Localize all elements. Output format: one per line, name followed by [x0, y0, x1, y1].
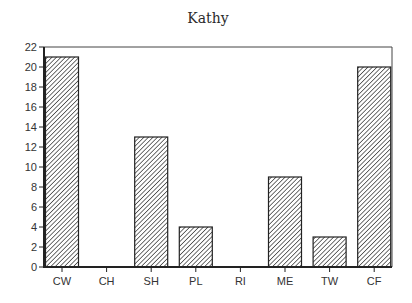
- bar-cf: [358, 67, 391, 267]
- y-tick-label: 18: [25, 81, 37, 93]
- x-tick-label: TW: [321, 275, 339, 287]
- x-tick-label: RI: [235, 275, 246, 287]
- bar-me: [269, 177, 302, 267]
- y-tick-label: 6: [31, 201, 37, 213]
- y-tick-label: 8: [31, 181, 37, 193]
- y-tick-label: 12: [25, 141, 37, 153]
- y-tick-label: 20: [25, 61, 37, 73]
- x-tick-label: ME: [277, 275, 294, 287]
- x-tick-label: CF: [367, 275, 382, 287]
- bar-pl: [179, 227, 212, 267]
- bar-tw: [313, 237, 346, 267]
- y-tick-label: 16: [25, 101, 37, 113]
- x-tick-label: SH: [144, 275, 159, 287]
- y-tick-label: 4: [31, 221, 37, 233]
- y-tick-label: 0: [31, 261, 37, 273]
- plot-frame: [44, 47, 392, 267]
- y-tick-label: 22: [25, 41, 37, 53]
- bar-chart: 0246810121416182022 CWCHSHPLRIMETWCF: [0, 0, 412, 303]
- x-tick-label: PL: [189, 275, 202, 287]
- y-tick-label: 2: [31, 241, 37, 253]
- x-tick-label: CW: [53, 275, 72, 287]
- x-axis: CWCHSHPLRIMETWCF: [44, 267, 392, 287]
- y-tick-label: 10: [25, 161, 37, 173]
- bar-cw: [46, 57, 79, 267]
- bars: [46, 57, 391, 267]
- y-tick-label: 14: [25, 121, 37, 133]
- y-axis: 0246810121416182022: [25, 41, 44, 273]
- bar-sh: [135, 137, 168, 267]
- x-tick-label: CH: [99, 275, 115, 287]
